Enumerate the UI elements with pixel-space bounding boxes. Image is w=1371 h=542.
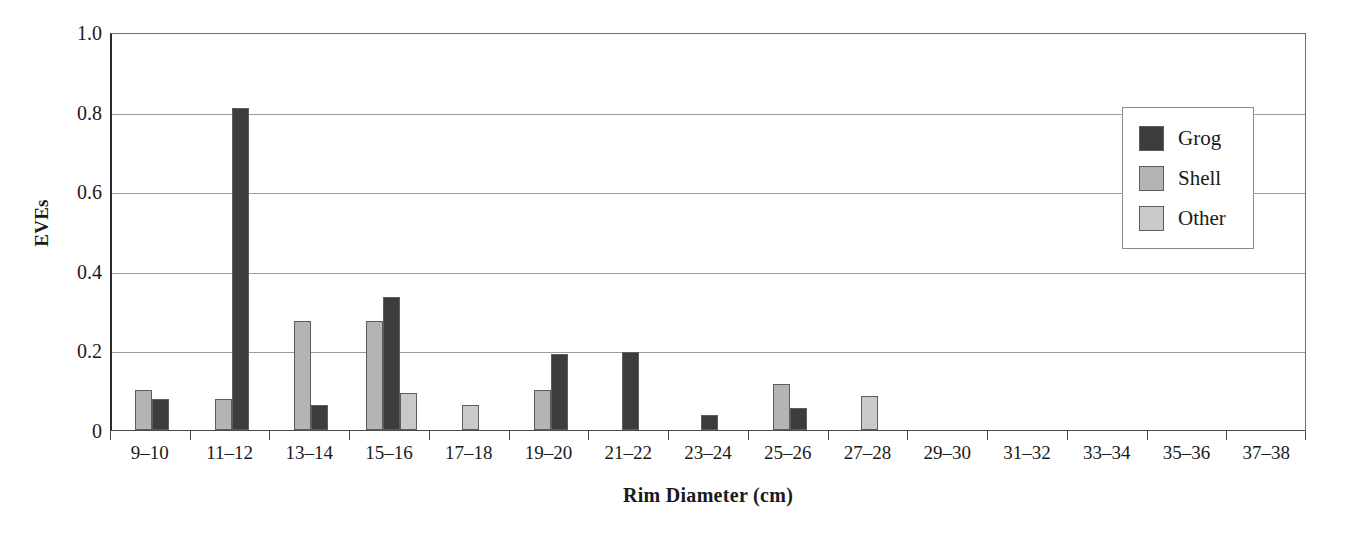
bar-group: [670, 34, 750, 430]
legend-entry: Other: [1123, 198, 1253, 238]
y-axis-title: EVEs: [31, 193, 53, 253]
legend-label: Other: [1178, 208, 1226, 229]
bar-group: [590, 34, 670, 430]
y-axis-tick-label: 0.2: [56, 341, 102, 361]
legend-swatch-icon: [1139, 206, 1164, 231]
x-axis-tick-label: 31–32: [1003, 442, 1051, 464]
x-axis-tick-label: 19–20: [525, 442, 573, 464]
chart-legend: GrogShellOther: [1122, 107, 1254, 249]
bar-shell: [773, 384, 790, 430]
bar-shell: [294, 321, 311, 430]
x-axis-tick-mark: [1305, 431, 1306, 440]
x-axis-tick-label: 25–26: [764, 442, 812, 464]
y-axis-tick-label: 0: [56, 421, 102, 441]
x-axis-tick-label: 23–24: [684, 442, 732, 464]
bar-group: [511, 34, 591, 430]
x-axis-tick-mark: [748, 431, 749, 440]
x-axis-tick-label: 33–34: [1083, 442, 1131, 464]
bar-group: [830, 34, 910, 430]
x-axis-tick-mark: [349, 431, 350, 440]
x-axis-tick-mark: [1226, 431, 1227, 440]
x-axis-tick-label: 11–12: [206, 442, 253, 464]
x-axis-title: Rim Diameter (cm): [110, 484, 1306, 507]
bar-chart-figure: EVEs 00.20.40.60.81.0 9–1011–1213–1415–1…: [0, 0, 1371, 542]
x-axis-tick-mark: [269, 431, 270, 440]
bar-group: [431, 34, 511, 430]
bar-grog: [701, 415, 718, 430]
y-axis-tick-label: 1.0: [56, 23, 102, 43]
y-axis-tick-label: 0.8: [56, 103, 102, 123]
legend-entry: Grog: [1123, 118, 1253, 158]
x-axis-tick-labels: 9–1011–1213–1415–1617–1819–2021–2223–242…: [110, 442, 1306, 472]
x-axis-tick-marks: [110, 431, 1306, 441]
legend-swatch-icon: [1139, 126, 1164, 151]
x-axis-tick-mark: [1147, 431, 1148, 440]
x-axis-tick-mark: [828, 431, 829, 440]
x-axis-tick-mark: [987, 431, 988, 440]
bar-shell: [135, 390, 152, 430]
bar-group: [192, 34, 272, 430]
bar-grog: [152, 399, 169, 430]
bar-other: [400, 393, 417, 430]
bar-other: [462, 405, 479, 430]
x-axis-tick-mark: [110, 431, 111, 440]
x-axis-tick-label: 15–16: [365, 442, 413, 464]
bar-grog: [232, 108, 249, 430]
x-axis-tick-mark: [668, 431, 669, 440]
x-axis-tick-mark: [190, 431, 191, 440]
y-axis-tick-label: 0.4: [56, 262, 102, 282]
legend-swatch-icon: [1139, 166, 1164, 191]
x-axis-tick-label: 37–38: [1242, 442, 1290, 464]
bar-grog: [790, 408, 807, 430]
bar-shell: [534, 390, 551, 430]
y-axis-tick-labels: 00.20.40.60.81.0: [56, 33, 102, 431]
x-axis-tick-label: 17–18: [445, 442, 493, 464]
bar-grog: [311, 405, 328, 430]
bar-grog: [622, 352, 639, 430]
x-axis-tick-mark: [509, 431, 510, 440]
bar-grog: [551, 354, 568, 430]
bar-group: [271, 34, 351, 430]
bar-shell: [215, 399, 232, 430]
bar-shell: [366, 321, 383, 430]
x-axis-tick-label: 21–22: [605, 442, 653, 464]
bar-group: [989, 34, 1069, 430]
legend-entry: Shell: [1123, 158, 1253, 198]
y-axis-tick-label: 0.6: [56, 182, 102, 202]
bar-grog: [383, 297, 400, 430]
x-axis-tick-mark: [907, 431, 908, 440]
bar-group: [112, 34, 192, 430]
bar-group: [909, 34, 989, 430]
x-axis-tick-label: 29–30: [923, 442, 971, 464]
x-axis-tick-label: 27–28: [844, 442, 892, 464]
x-axis-tick-mark: [1067, 431, 1068, 440]
x-axis-tick-mark: [429, 431, 430, 440]
x-axis-tick-label: 35–36: [1163, 442, 1211, 464]
legend-label: Grog: [1178, 128, 1221, 149]
x-axis-tick-label: 13–14: [286, 442, 334, 464]
bar-other: [861, 396, 878, 430]
x-axis-tick-mark: [588, 431, 589, 440]
bar-group: [750, 34, 830, 430]
x-axis-tick-label: 9–10: [131, 442, 169, 464]
bar-group: [351, 34, 431, 430]
legend-label: Shell: [1178, 168, 1221, 189]
